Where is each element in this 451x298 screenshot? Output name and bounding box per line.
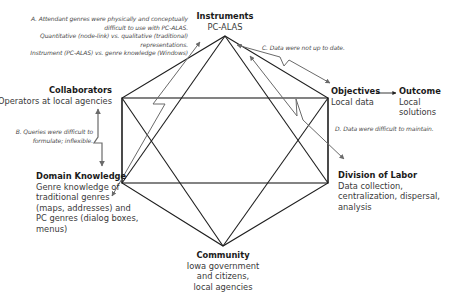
objectives-body: Local data	[331, 97, 381, 108]
instruments-title: Instruments	[190, 11, 260, 22]
division-of-labor-title: Division of Labor	[338, 170, 451, 181]
contradiction-note-d: D. Data were difficult to maintain.	[335, 125, 451, 134]
domain-knowledge-title: Domain Knowledge	[36, 171, 156, 182]
collaborators-body: Operators at local agencies	[0, 96, 112, 107]
outcome-body: Local solutions	[399, 97, 451, 118]
outcome-title: Outcome	[399, 86, 451, 97]
node-collaborators: Collaborators Operators at local agencie…	[0, 85, 112, 106]
node-community: Community Iowa government and citizens, …	[183, 250, 263, 292]
collaborators-title: Collaborators	[0, 85, 112, 96]
contradiction-arrow-b	[94, 109, 102, 166]
node-domain-knowledge: Domain Knowledge Genre knowledge of trad…	[36, 171, 156, 235]
objectives-title: Objectives	[331, 86, 381, 97]
community-title: Community	[183, 250, 263, 261]
contradiction-note-c: C. Data were not up to date.	[262, 44, 382, 53]
contradiction-note-a: A. Attendant genres were physically and …	[22, 15, 188, 58]
node-division-of-labor: Division of Labor Data collection, centr…	[338, 170, 451, 212]
node-objectives: Objectives Local data	[331, 86, 381, 107]
node-outcome: Outcome Local solutions	[399, 86, 451, 118]
domain-knowledge-body: Genre knowledge of traditional genres (m…	[36, 182, 156, 235]
community-body: Iowa government and citizens, local agen…	[183, 261, 263, 293]
contradiction-note-b: B. Queries were difficult to formulate; …	[4, 128, 93, 145]
instruments-body: PC-ALAS	[190, 22, 260, 33]
contradiction-arrow-d	[250, 56, 344, 159]
division-of-labor-body: Data collection, centralization, dispers…	[338, 181, 451, 213]
node-instruments: Instruments PC-ALAS	[190, 11, 260, 32]
